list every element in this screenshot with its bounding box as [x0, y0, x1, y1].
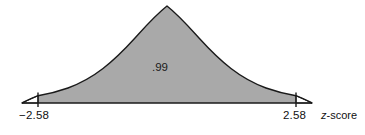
shaded-area-proportion-label: .99: [152, 61, 168, 74]
shaded-area-between-critical-values: [38, 6, 296, 103]
tick-label-negative-2-58: −2.58: [19, 109, 49, 122]
normal-curve-chart: [0, 0, 365, 135]
axis-label-score-suffix: -score: [327, 109, 358, 121]
x-axis-label-z-score: z-score: [321, 109, 357, 122]
tick-label-positive-2-58: 2.58: [283, 109, 306, 122]
z-score-normal-distribution-figure: −2.58 2.58 z-score .99: [0, 0, 365, 135]
